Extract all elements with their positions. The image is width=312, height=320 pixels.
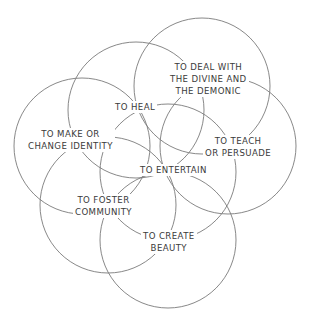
label-line: COMMUNITY	[75, 206, 132, 218]
label-foster: TO FOSTER COMMUNITY	[73, 194, 134, 218]
label-entertain: TO ENTERTAIN	[138, 164, 209, 176]
label-heal: TO HEAL	[113, 101, 157, 113]
label-line: CHANGE IDENTITY	[28, 140, 113, 152]
label-line: TO CREATE	[143, 230, 195, 242]
label-line: THE DIVINE AND	[170, 73, 247, 85]
label-line: TO MAKE OR	[28, 128, 113, 140]
label-identity: TO MAKE OR CHANGE IDENTITY	[26, 128, 115, 152]
label-line: TO HEAL	[115, 101, 155, 113]
label-divine: TO DEAL WITH THE DIVINE AND THE DEMONIC	[168, 61, 249, 97]
label-beauty: TO CREATE BEAUTY	[141, 230, 197, 254]
label-line: THE DEMONIC	[170, 85, 247, 97]
venn-circles	[0, 0, 312, 320]
label-line: TO ENTERTAIN	[140, 164, 207, 176]
label-teach: TO TEACH OR PERSUADE	[203, 135, 273, 159]
label-line: OR PERSUADE	[205, 147, 271, 159]
label-line: TO TEACH	[205, 135, 271, 147]
label-line: TO FOSTER	[75, 194, 132, 206]
label-line: TO DEAL WITH	[170, 61, 247, 73]
label-line: BEAUTY	[143, 242, 195, 254]
